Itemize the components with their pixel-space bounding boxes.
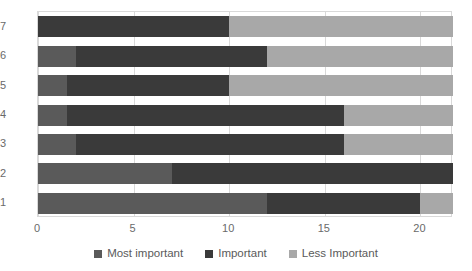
- bar-group-6: [38, 46, 453, 67]
- legend-swatch-icon: [289, 250, 297, 258]
- bar-segment-3-important: [76, 134, 344, 155]
- bar-segment-3-less-important: [344, 134, 453, 155]
- y-tick-label-3: 3: [0, 137, 6, 149]
- y-tick-label-4: 4: [0, 108, 6, 120]
- bar-segment-7-important: [38, 16, 229, 37]
- bar-segment-6-most-important: [38, 46, 76, 67]
- bar-segment-5-less-important: [229, 75, 453, 96]
- bar-group-7: [38, 16, 453, 37]
- bar-segment-3-most-important: [38, 134, 76, 155]
- x-tick-label-10: 10: [208, 222, 248, 235]
- bar-segment-6-important: [76, 46, 267, 67]
- y-tick-label-7: 7: [0, 20, 6, 32]
- bar-group-4: [38, 105, 453, 126]
- y-tick-label-2: 2: [0, 167, 6, 179]
- bar-segment-2-important: [172, 163, 453, 184]
- x-tick-label-20: 20: [399, 222, 439, 235]
- bar-segment-7-less-important: [229, 16, 453, 37]
- legend-swatch-icon: [94, 250, 102, 258]
- legend-swatch-icon: [205, 250, 213, 258]
- bar-segment-1-important: [267, 193, 420, 214]
- y-tick-label-1: 1: [0, 196, 6, 208]
- bar-segment-6-less-important: [267, 46, 453, 67]
- x-tick-label-15: 15: [304, 222, 344, 235]
- bar-group-5: [38, 75, 453, 96]
- bar-group-3: [38, 134, 453, 155]
- bar-group-1: [38, 193, 453, 214]
- legend-label: Important: [218, 247, 267, 260]
- chart-legend: Most importantImportantLess Important: [0, 247, 472, 260]
- bar-group-2: [38, 163, 453, 184]
- bar-segment-4-important: [67, 105, 344, 126]
- stacked-bar-chart: 7654321 05101520 Most importantImportant…: [0, 0, 472, 271]
- plot-area: [37, 11, 452, 217]
- x-tick-label-5: 5: [113, 222, 153, 235]
- bar-segment-1-most-important: [38, 193, 267, 214]
- bar-segment-5-important: [67, 75, 230, 96]
- x-tick-label-0: 0: [17, 222, 57, 235]
- legend-item-important[interactable]: Important: [205, 247, 267, 260]
- legend-label: Less Important: [302, 247, 378, 260]
- bar-segment-2-most-important: [38, 163, 172, 184]
- legend-item-less-important[interactable]: Less Important: [289, 247, 378, 260]
- legend-label: Most important: [107, 247, 183, 260]
- bar-segment-5-most-important: [38, 75, 67, 96]
- y-tick-label-5: 5: [0, 79, 6, 91]
- y-tick-label-6: 6: [0, 49, 6, 61]
- bar-segment-4-most-important: [38, 105, 67, 126]
- bar-segment-1-less-important: [420, 193, 453, 214]
- legend-item-most-important[interactable]: Most important: [94, 247, 183, 260]
- bar-segment-4-less-important: [344, 105, 453, 126]
